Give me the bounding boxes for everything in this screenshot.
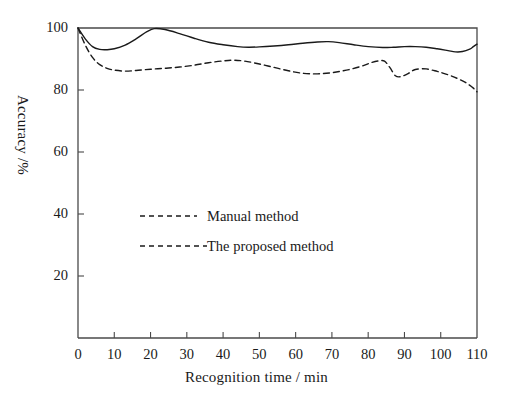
x-axis-label: Recognition time / min [0,369,513,386]
y-tick-label: 60 [16,143,68,160]
legend-label-proposed-method: The proposed method [207,238,333,255]
y-tick-label: 40 [16,205,68,222]
chart-figure: Accuracy /% Recognition time / min 10080… [0,0,513,413]
legend-label-manual-method: Manual method [207,208,298,225]
y-tick-label: 80 [16,81,68,98]
y-tick-label: 100 [16,19,68,36]
x-tick-label: 110 [455,346,499,363]
y-tick-label: 20 [16,267,68,284]
